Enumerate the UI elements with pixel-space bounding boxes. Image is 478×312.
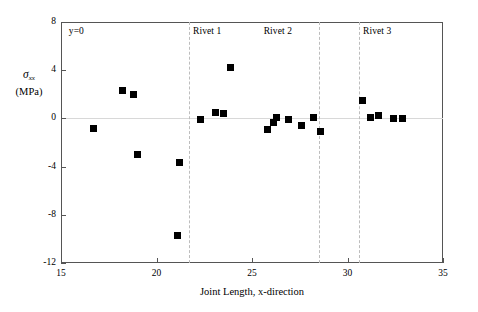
y-axis-units: (MPa) [0,85,58,98]
y-equals-zero-label: y=0 [69,26,84,36]
y-tick-5 [61,263,66,264]
rivet-2-label: Rivet 2 [264,26,292,36]
y-tick-label-3: -4 [30,161,56,171]
rivet-3-label: Rivet 3 [363,26,391,36]
rivet-3-line [359,22,360,263]
data-point [197,116,204,123]
data-point [134,151,141,158]
data-point [298,122,305,129]
x-tick-3 [348,258,349,263]
y-tick-label-2: 0 [30,112,56,122]
y-tick-2 [61,118,66,119]
data-point [399,115,406,122]
y-tick-4 [61,215,66,216]
data-point [119,87,126,94]
x-tick-2 [252,258,253,263]
data-point [317,128,324,135]
data-point [174,232,181,239]
zero-gridline [61,118,443,119]
data-point [90,125,97,132]
x-axis-title: Joint Length, x-direction [61,286,443,297]
x-tick-label-2: 25 [237,268,267,278]
data-point [273,114,280,121]
y-tick-label-5: -12 [30,257,56,267]
data-point [130,91,137,98]
y-tick-label-1: 4 [30,64,56,74]
data-point [176,159,183,166]
data-point [227,64,234,71]
plot-area [61,22,443,263]
data-point [264,126,271,133]
data-point [375,112,382,119]
y-tick-label-4: -8 [30,209,56,219]
x-tick-1 [157,258,158,263]
x-tick-label-3: 30 [333,268,363,278]
rivet-1-line [189,22,190,263]
x-tick-4 [443,258,444,263]
y-tick-label-0: 8 [30,16,56,26]
data-point [367,114,374,121]
x-tick-label-4: 35 [428,268,458,278]
y-axis-subscript: xx [29,74,35,82]
rivet-1-label: Rivet 1 [193,26,221,36]
data-point [310,114,317,121]
data-point [220,110,227,117]
y-tick-0 [61,22,66,23]
data-point [390,115,397,122]
data-point [212,109,219,116]
x-tick-label-1: 20 [142,268,172,278]
y-tick-1 [61,70,66,71]
data-point [285,116,292,123]
x-tick-label-0: 15 [46,268,76,278]
y-tick-3 [61,167,66,168]
chart-figure: σxx (MPa) Joint Length, x-direction 840-… [0,0,478,312]
rivet-2-line [319,22,320,263]
data-point [359,97,366,104]
